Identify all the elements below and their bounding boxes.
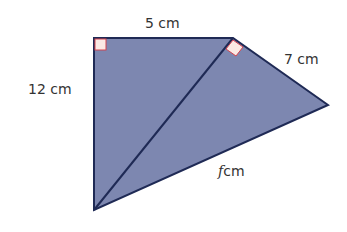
geometry-diagram	[0, 0, 347, 232]
label-bottom-side: fcm	[218, 164, 245, 178]
unit-cm: cm	[223, 163, 244, 179]
label-top-side: 5 cm	[145, 16, 180, 30]
label-right-side: 7 cm	[284, 52, 319, 66]
right-angle-marker-top-left	[95, 39, 106, 50]
label-left-side: 12 cm	[28, 82, 72, 96]
